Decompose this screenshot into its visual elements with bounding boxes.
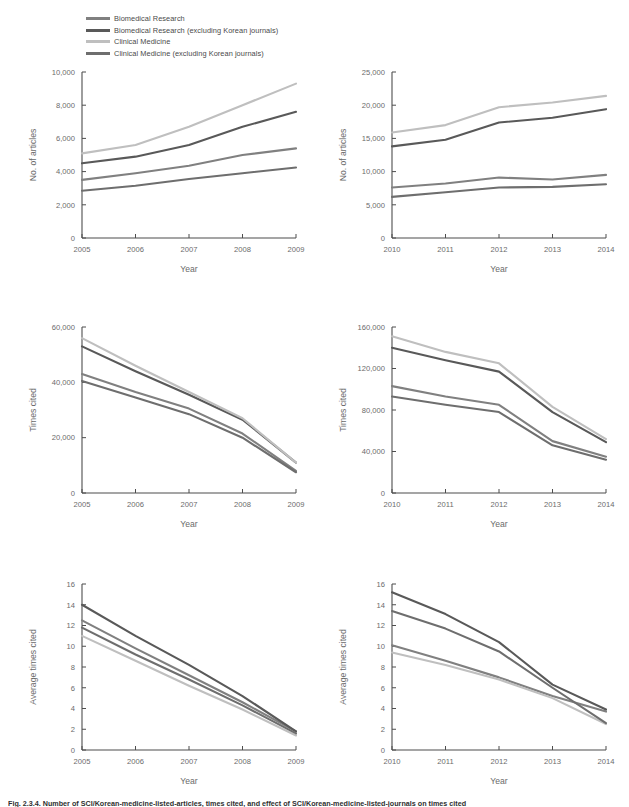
- figure-panel-grid: Biomedical ResearchBiomedical Research (…: [0, 0, 629, 807]
- series-line: [82, 112, 296, 163]
- x-tick-label: 2008: [234, 245, 251, 254]
- x-tick-label: 2007: [181, 757, 198, 766]
- x-tick-label: 2009: [288, 500, 305, 509]
- x-tick-label: 2013: [544, 500, 561, 509]
- chart-times-cited-2010-2014: 040,00080,000120,000160,0002010201120122…: [330, 315, 620, 545]
- y-tick-label: 15,000: [362, 134, 385, 143]
- legend-item: Biomedical Research (excluding Korean jo…: [86, 25, 386, 37]
- x-tick-label: 2009: [288, 245, 305, 254]
- x-tick-label: 2011: [437, 757, 453, 766]
- x-axis-title: Year: [490, 264, 508, 274]
- y-tick-label: 160,000: [358, 323, 385, 332]
- series-line: [82, 148, 296, 180]
- y-axis-title: No. of articles: [28, 129, 38, 182]
- y-tick-label: 0: [71, 234, 75, 243]
- legend-item-label: Biomedical Research: [114, 14, 185, 23]
- y-tick-label: 120,000: [358, 364, 385, 373]
- series-line: [82, 628, 296, 734]
- series-line: [392, 652, 606, 724]
- x-tick-label: 2008: [234, 500, 251, 509]
- y-tick-label: 10,000: [52, 68, 75, 77]
- series-line: [82, 636, 296, 736]
- x-tick-label: 2007: [181, 245, 198, 254]
- y-axis-title: Average times cited: [28, 629, 38, 705]
- y-tick-label: 20,000: [362, 101, 385, 110]
- x-tick-label: 2010: [384, 757, 401, 766]
- y-tick-label: 10,000: [362, 167, 385, 176]
- series-line: [82, 167, 296, 190]
- legend-item-label: Clinical Medicine: [114, 37, 170, 46]
- y-tick-label: 8,000: [56, 101, 75, 110]
- y-tick-label: 20,000: [52, 433, 75, 442]
- legend-color-swatch: [86, 52, 110, 55]
- x-tick-label: 2013: [544, 245, 561, 254]
- x-tick-label: 2008: [234, 757, 251, 766]
- x-axis-title: Year: [490, 776, 508, 786]
- x-tick-label: 2013: [544, 757, 561, 766]
- legend-item-label: Biomedical Research (excluding Korean jo…: [114, 26, 278, 35]
- chart-avg-times-cited-2010-2014: 024681012141620102011201220132014YearAve…: [330, 572, 620, 802]
- y-tick-label: 25,000: [362, 68, 385, 77]
- chart-avg-times-cited-2005-2009: 024681012141620052006200720082009YearAve…: [20, 572, 310, 802]
- legend-item: Clinical Medicine: [86, 36, 386, 48]
- y-tick-label: 6,000: [56, 134, 75, 143]
- series-line: [82, 84, 296, 154]
- y-tick-label: 2,000: [56, 201, 75, 210]
- x-tick-label: 2006: [127, 757, 144, 766]
- y-tick-label: 10: [377, 642, 385, 651]
- x-tick-label: 2011: [437, 500, 453, 509]
- x-tick-label: 2005: [74, 500, 91, 509]
- figure-caption: Fig. 2.3.4. Number of SCI/Korean-medicin…: [8, 799, 623, 807]
- y-tick-label: 0: [71, 746, 75, 755]
- y-tick-label: 6: [71, 684, 75, 693]
- y-tick-label: 40,000: [362, 447, 385, 456]
- y-tick-label: 8: [71, 663, 75, 672]
- legend-color-swatch: [86, 29, 110, 32]
- y-axis-title: Average times cited: [338, 629, 348, 705]
- legend-color-swatch: [86, 17, 110, 20]
- x-tick-label: 2006: [127, 245, 144, 254]
- series-line: [82, 605, 296, 732]
- y-tick-label: 0: [71, 489, 75, 498]
- x-tick-label: 2014: [598, 500, 615, 509]
- y-tick-label: 8: [381, 663, 385, 672]
- y-axis-title: No. of articles: [338, 129, 348, 182]
- chart-articles-2005-2009: 02,0004,0006,0008,00010,0002005200620072…: [20, 60, 310, 290]
- series-line: [82, 374, 296, 471]
- legend-item: Biomedical Research: [86, 13, 386, 25]
- x-tick-label: 2009: [288, 757, 305, 766]
- x-axis-title: Year: [490, 519, 508, 529]
- y-tick-label: 10: [67, 642, 75, 651]
- y-tick-label: 2: [381, 725, 385, 734]
- legend-item: Clinical Medicine (excluding Korean jour…: [86, 48, 386, 60]
- y-tick-label: 16: [67, 580, 75, 589]
- y-tick-label: 6: [381, 684, 385, 693]
- series-line: [392, 348, 606, 442]
- series-line: [82, 346, 296, 462]
- y-tick-label: 14: [377, 601, 385, 610]
- series-line: [82, 620, 296, 731]
- x-axis-title: Year: [180, 776, 198, 786]
- x-tick-label: 2011: [437, 245, 453, 254]
- series-line: [82, 338, 296, 462]
- x-tick-label: 2010: [384, 245, 401, 254]
- x-tick-label: 2005: [74, 245, 91, 254]
- series-line: [392, 611, 606, 723]
- x-tick-label: 2014: [598, 245, 615, 254]
- x-axis-title: Year: [180, 264, 198, 274]
- y-tick-label: 12: [67, 621, 75, 630]
- y-tick-label: 0: [381, 489, 385, 498]
- y-tick-label: 4: [381, 704, 385, 713]
- y-tick-label: 80,000: [362, 406, 385, 415]
- y-tick-label: 4,000: [56, 167, 75, 176]
- legend-item-label: Clinical Medicine (excluding Korean jour…: [114, 49, 264, 58]
- y-axis-title: Times cited: [28, 388, 38, 432]
- legend: Biomedical ResearchBiomedical Research (…: [86, 13, 386, 59]
- x-tick-label: 2012: [491, 245, 508, 254]
- legend-color-swatch: [86, 40, 110, 43]
- y-tick-label: 14: [67, 601, 75, 610]
- y-tick-label: 5,000: [366, 201, 385, 210]
- chart-articles-2010-2014: 05,00010,00015,00020,00025,0002010201120…: [330, 60, 620, 290]
- chart-times-cited-2005-2009: 020,00040,00060,00020052006200720082009Y…: [20, 315, 310, 545]
- y-tick-label: 16: [377, 580, 385, 589]
